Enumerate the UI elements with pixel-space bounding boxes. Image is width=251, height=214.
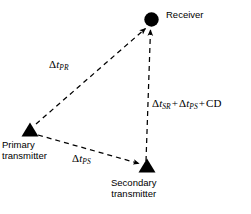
- receiver-label: Receiver: [166, 9, 204, 20]
- cd-term: CD: [206, 97, 221, 109]
- primary-transmitter-label-line1: Primary: [2, 139, 47, 150]
- subscript-pr: PR: [59, 63, 68, 72]
- receiver-node-marker: [144, 12, 158, 26]
- primary-transmitter-label: Primary transmitter: [2, 139, 47, 161]
- edge-label-delta-t-pr: ΔtPR: [49, 58, 69, 72]
- secondary-transmitter-label-line1: Secondary: [111, 177, 156, 188]
- edge-label-delta-t-sum: ΔtSR+ΔtPS+CD: [152, 97, 221, 111]
- primary-transmitter-node-marker: [22, 123, 39, 137]
- subscript-ps-2: PS: [189, 102, 197, 111]
- edge-primary-to-receiver: [36, 29, 146, 125]
- subscript-ps: PS: [82, 157, 90, 166]
- edge-label-delta-t-ps: ΔtPS: [72, 152, 91, 166]
- receiver-label-text: Receiver: [166, 9, 204, 20]
- primary-transmitter-label-line2: transmitter: [2, 150, 47, 161]
- subscript-sr: SR: [162, 102, 170, 111]
- secondary-transmitter-node-marker: [139, 159, 156, 173]
- timing-diagram: Receiver Primary transmitter Secondary t…: [0, 0, 251, 214]
- edge-secondary-to-receiver: [146, 30, 151, 161]
- plus-operator-1: +: [171, 97, 179, 109]
- plus-operator-2: +: [198, 97, 206, 109]
- secondary-transmitter-label: Secondary transmitter: [111, 177, 156, 199]
- secondary-transmitter-label-line2: transmitter: [111, 188, 156, 199]
